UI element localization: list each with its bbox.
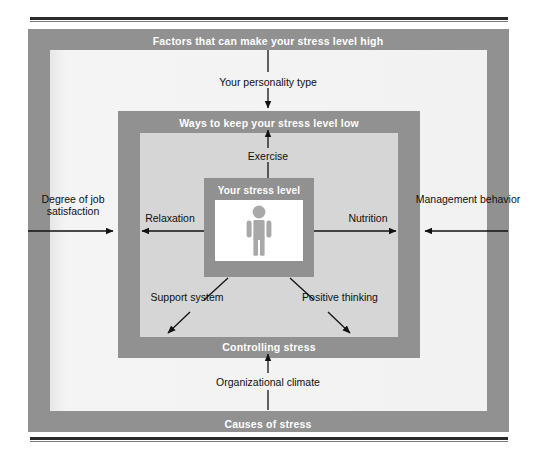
label-organizational-climate: Organizational climate [0, 376, 536, 388]
top-rule-thick [30, 17, 508, 20]
bottom-rule-thick [30, 437, 508, 440]
top-rule-thin [30, 21, 508, 22]
label-support-system: Support system [138, 291, 236, 303]
diagram-canvas: Factors that can make your stress level … [0, 0, 536, 456]
label-relaxation: Relaxation [132, 212, 208, 224]
person-pictogram-icon [245, 205, 273, 256]
center-band-label: Your stress level [204, 186, 314, 196]
outer-band-bottom-label: Causes of stress [0, 419, 536, 430]
bottom-rule-thin [30, 441, 508, 442]
label-nutrition: Nutrition [330, 212, 406, 224]
outer-band-top-label: Factors that can make your stress level … [0, 36, 536, 47]
middle-band-top-label: Ways to keep your stress level low [118, 118, 420, 129]
label-positive-thinking: Positive thinking [288, 291, 392, 303]
label-exercise: Exercise [0, 150, 536, 162]
label-your-personality-type: Your personality type [0, 76, 536, 88]
label-management-behavior: Management behavior [412, 193, 524, 205]
label-degree-of-job-satisfaction: Degree of job satisfaction [18, 193, 128, 217]
middle-band-bottom-label: Controlling stress [118, 342, 420, 353]
